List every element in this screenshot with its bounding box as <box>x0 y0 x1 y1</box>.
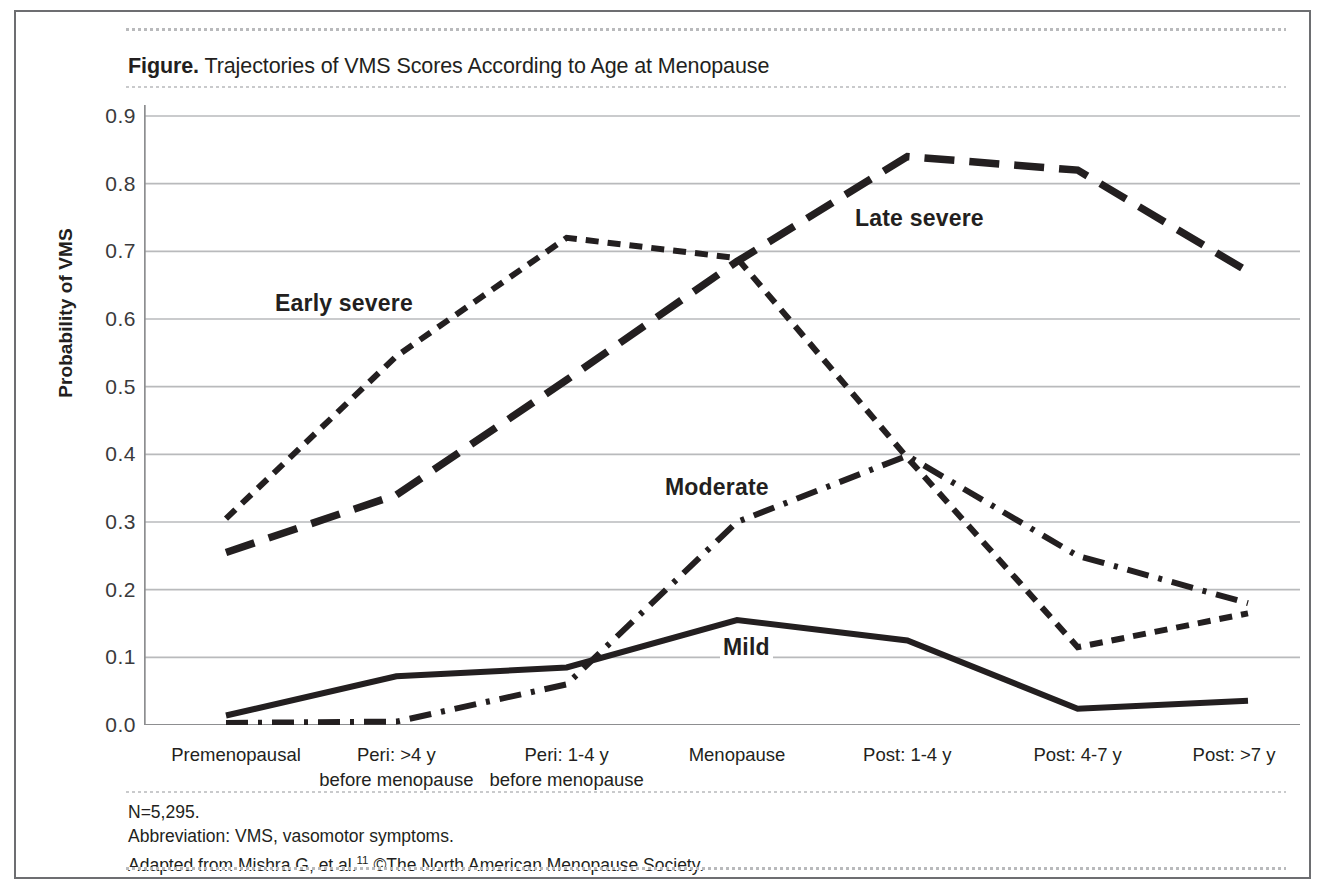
figure-title-text: Trajectories of VMS Scores According to … <box>199 54 769 78</box>
x-tick-2: Peri: 1-4 ybefore menopause <box>490 742 644 792</box>
series-label-early-severe: Early severe <box>272 290 416 317</box>
plot-area <box>144 105 1300 725</box>
y-tick-0-1: 0.1 <box>76 645 136 669</box>
divider-above-footnotes <box>126 791 1286 793</box>
y-tick-0-7: 0.7 <box>76 239 136 263</box>
footnote-source-pre: Adapted from Mishra G, et al. <box>128 855 357 875</box>
y-tick-0-8: 0.8 <box>76 172 136 196</box>
y-tick-0-0: 0.0 <box>76 713 136 737</box>
series-label-mild: Mild <box>720 634 773 661</box>
figure-label: Figure. <box>128 54 199 78</box>
series-label-late-severe: Late severe <box>852 205 987 232</box>
y-tick-0-3: 0.3 <box>76 510 136 534</box>
x-tick-6: Post: >7 y <box>1193 742 1276 767</box>
x-tick-5: Post: 4-7 y <box>1033 742 1121 767</box>
x-tick-0: Premenopausal <box>171 742 301 767</box>
series-label-moderate: Moderate <box>662 474 772 501</box>
footnote-source-superscript: 11 <box>357 854 369 866</box>
footnote-source-post: ©The North American Menopause Society. <box>369 855 705 875</box>
y-tick-0-5: 0.5 <box>76 375 136 399</box>
chart-canvas <box>144 105 1300 725</box>
y-tick-0-4: 0.4 <box>76 442 136 466</box>
divider-bottom <box>126 867 1286 870</box>
figure-panel: Figure. Trajectories of VMS Scores Accor… <box>14 10 1311 879</box>
y-tick-0-6: 0.6 <box>76 307 136 331</box>
footnotes: N=5,295. Abbreviation: VMS, vasomotor sy… <box>128 800 704 877</box>
figure-title: Figure. Trajectories of VMS Scores Accor… <box>128 54 769 79</box>
x-tick-4: Post: 1-4 y <box>863 742 951 767</box>
divider-top <box>126 28 1286 31</box>
y-axis-tick-labels: 0.90.80.70.60.50.40.30.20.10.0 <box>64 105 136 725</box>
footnote-abbreviation: Abbreviation: VMS, vasomotor symptoms. <box>128 824 704 848</box>
y-tick-0-2: 0.2 <box>76 578 136 602</box>
footnote-n: N=5,295. <box>128 800 704 824</box>
footnote-source: Adapted from Mishra G, et al.11 ©The Nor… <box>128 848 704 877</box>
y-tick-0-9: 0.9 <box>76 104 136 128</box>
x-tick-3: Menopause <box>689 742 786 767</box>
x-tick-1: Peri: >4 ybefore menopause <box>319 742 473 792</box>
divider-under-title <box>126 86 1286 88</box>
x-axis-tick-labels: PremenopausalPeri: >4 ybefore menopauseP… <box>144 734 1300 794</box>
